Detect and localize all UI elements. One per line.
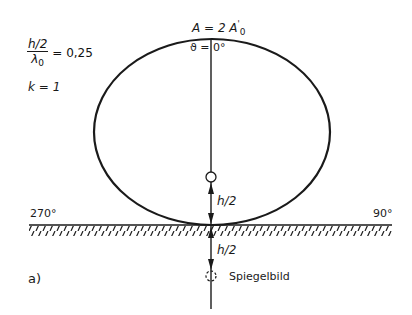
ratio-value: = 0,25 xyxy=(52,46,93,60)
arrow-up-icon xyxy=(208,183,214,194)
height-wavelength-ratio: h/2 λ0 = 0,25 xyxy=(27,38,93,68)
amplitude-label: A = 2 A'0 xyxy=(192,21,246,37)
upper-height-label: h/2 xyxy=(217,195,236,207)
arrow-down-icon xyxy=(208,259,214,270)
ratio-denominator: λ0 xyxy=(31,52,44,68)
k-parameter-label: k = 1 xyxy=(28,81,60,93)
angle-270-label: 270° xyxy=(30,208,57,219)
antenna-icon xyxy=(206,172,216,182)
mirror-image-label: Spiegelbild xyxy=(229,271,290,282)
radiation-lobe xyxy=(94,39,330,225)
arrow-down-icon xyxy=(208,213,214,224)
lower-height-label: h/2 xyxy=(217,244,236,256)
angle-zero-label: ϑ = 0° xyxy=(190,42,226,53)
angle-90-label: 90° xyxy=(373,208,393,219)
ratio-numerator: h/2 xyxy=(27,38,48,52)
panel-label: a) xyxy=(28,272,41,285)
